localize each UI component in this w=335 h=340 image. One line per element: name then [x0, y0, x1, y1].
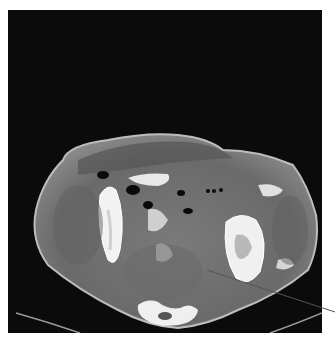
table-line-left — [16, 313, 80, 333]
bowel-gas — [177, 190, 185, 196]
bowel-gas — [183, 208, 193, 214]
ct-slice-graphic — [8, 10, 322, 333]
bowel-gas — [97, 171, 109, 179]
bowel-gas — [143, 201, 153, 209]
bowel-gas — [126, 185, 140, 195]
pelvic-mass — [123, 244, 203, 300]
table-line-right — [270, 313, 322, 333]
ct-scan-image — [8, 10, 322, 333]
